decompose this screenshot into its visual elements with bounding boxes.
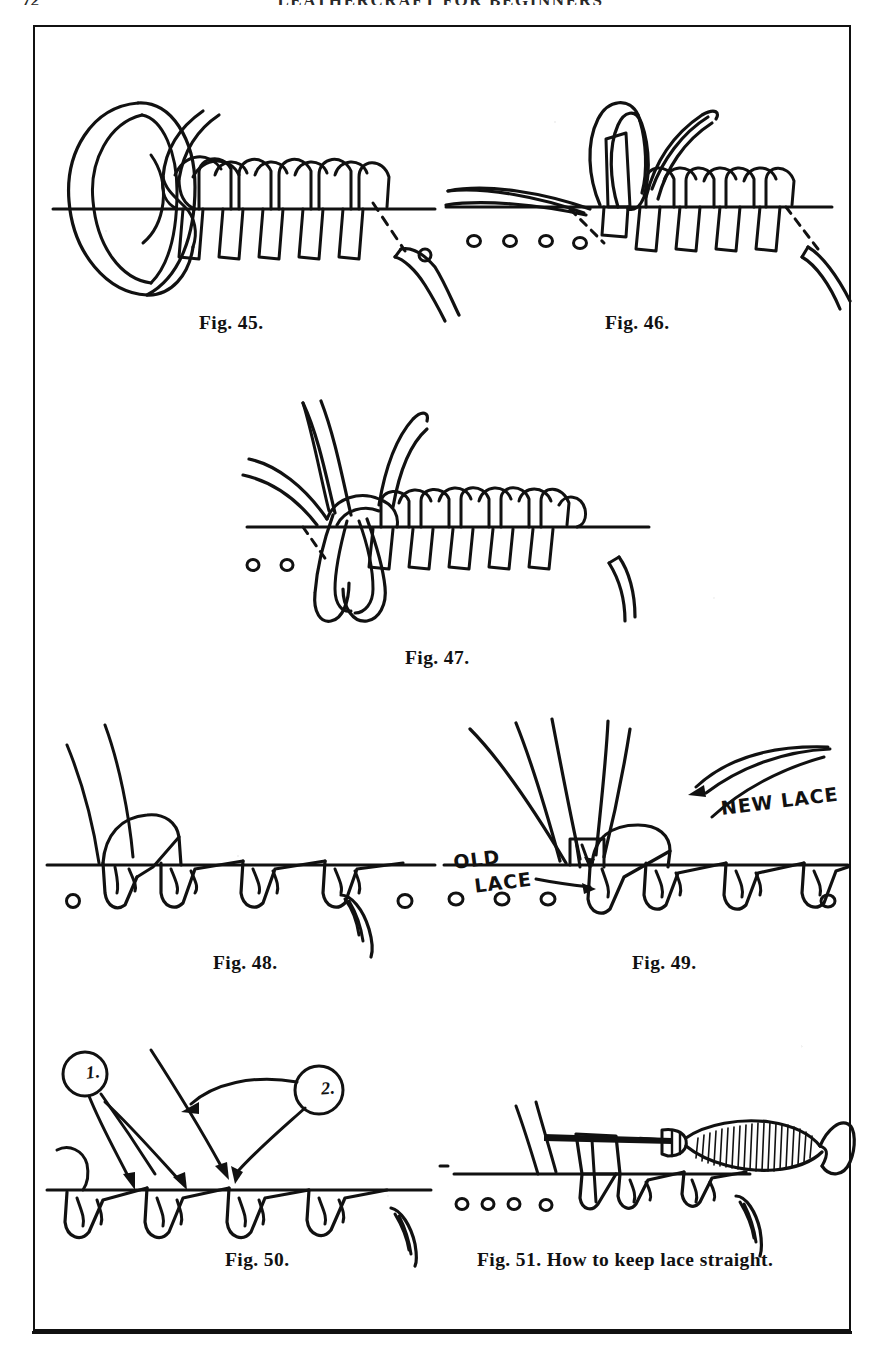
figure-45-illustration [43,57,443,312]
figure-51-illustration [440,1062,855,1262]
figure-51-caption: Fig. 51. How to keep lace straight. [477,1249,773,1271]
running-head: LEATHERCRAFT FOR BEGINNERS [0,0,881,5]
figure-50-callout-1: 1. [85,1061,101,1083]
figure-48-illustration [43,717,443,947]
figure-49-caption: Fig. 49. [632,952,696,974]
figure-49-illustration [440,717,855,947]
figure-49-old-lace-line-1: OLD [452,846,494,873]
figure-50-illustration [43,1022,443,1257]
figure-46-caption: Fig. 46. [605,312,669,334]
figure-49-label-old-lace-line1: OLDLACE [452,846,498,899]
figure-47-caption: Fig. 47. [405,647,469,669]
figure-50-callout-2: 2. [320,1078,336,1100]
figure-47-illustration [231,387,661,642]
figure-45-caption: Fig. 45. [199,312,263,334]
figure-50-caption: Fig. 50. [225,1249,289,1271]
illustration-plate-frame: Fig. 45. [33,25,851,1331]
figure-48-caption: Fig. 48. [213,952,277,974]
figure-46-illustration [440,57,840,312]
figure-49-old-lace-line-2: LACE [473,872,498,897]
